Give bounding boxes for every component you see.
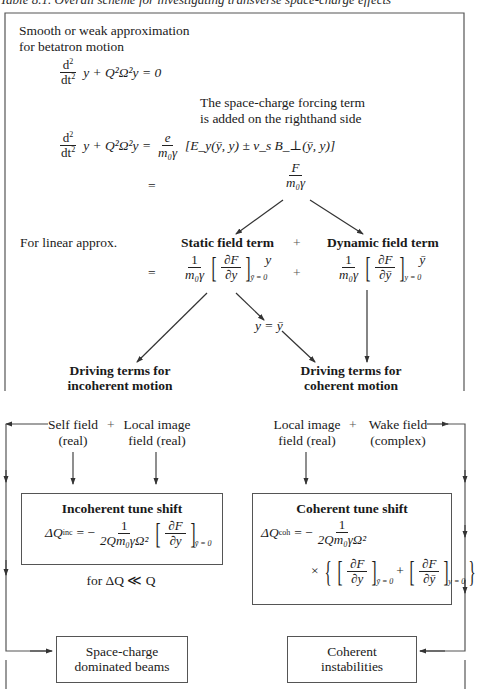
incoherent-formula: ΔQinc = − 12Qm₀γΩ² [ ∂F∂y ] ȳ = 0 [45, 518, 212, 548]
equals-sign: = [148, 178, 156, 193]
self-field-line1: Self field [48, 417, 98, 432]
wake-field-line1: Wake field [368, 417, 428, 432]
wake-field-line2: (complex) [368, 433, 428, 448]
equation-forced-motion: d2 dt2 y + Q²Ω²y = e m₀γ [E_y(ȳ, y) ± v_… [56, 131, 335, 160]
result-right-line2: instabilities [288, 659, 416, 674]
driving-coherent-line1: Driving terms for [291, 363, 411, 378]
plus-sign: + [293, 235, 301, 250]
self-field-line2: (real) [48, 433, 98, 448]
local-image-right-line2: field (real) [272, 433, 342, 448]
condition-text: for ΔQ ≪ Q [71, 573, 171, 588]
space-charge-dominated-beams-box: Space-charge dominated beams [56, 636, 188, 683]
driving-incoherent-line2: incoherent motion [60, 378, 180, 393]
plus-sign-right: + [349, 417, 357, 432]
note-line2: is added on the righthand side [200, 111, 360, 126]
intro-text-line1: Smooth or weak approximation [19, 23, 190, 38]
coherent-tune-shift-box: Coherent tune shift ΔQcoh = − 12Qm₀γΩ² ×… [252, 493, 452, 605]
result-right-line1: Coherent [288, 644, 416, 659]
coherent-formula-line2: × { [ ∂F∂y ] ȳ = 0 + [ ∂F∂ȳ ] y = 0 } [311, 556, 479, 586]
force-fraction: F m₀γ [281, 161, 310, 190]
y-equals-ybar: y = ȳ [255, 318, 283, 333]
plus-sign-2: + [293, 265, 301, 280]
static-term-expression: 1m₀γ [ ∂F∂y ] ȳ = 0 y [180, 252, 271, 282]
static-field-term-heading: Static field term [181, 235, 274, 250]
plus-sign-left: + [107, 417, 115, 432]
dynamic-field-term-heading: Dynamic field term [327, 235, 439, 250]
coherent-heading: Coherent tune shift [253, 501, 451, 516]
driving-incoherent-line1: Driving terms for [60, 363, 180, 378]
result-left-line1: Space-charge [57, 644, 187, 659]
intro-text-line2: for betatron motion [19, 39, 124, 54]
incoherent-tune-shift-box: Incoherent tune shift ΔQinc = − 12Qm₀γΩ²… [21, 493, 223, 565]
linear-approx-label: For linear approx. [20, 235, 117, 250]
local-image-left-line1: Local image [122, 417, 192, 432]
equation-free-motion: d2 dt2 y + Q²Ω²y = 0 [56, 58, 161, 87]
driving-coherent-line2: coherent motion [291, 378, 411, 393]
coherent-instabilities-box: Coherent instabilities [287, 636, 417, 683]
dynamic-term-expression: 1m₀γ [ ∂F∂ȳ ] y = 0 ȳ [334, 252, 425, 282]
coherent-formula-line1: ΔQcoh = − 12Qm₀γΩ² [261, 518, 371, 547]
local-image-left-line2: field (real) [122, 433, 192, 448]
second-derivative-fraction: d2 dt2 [58, 58, 78, 87]
result-left-line2: dominated beams [57, 659, 187, 674]
equals-sign-2: = [148, 265, 156, 280]
local-image-right-line1: Local image [272, 417, 342, 432]
incoherent-heading: Incoherent tune shift [22, 501, 222, 516]
note-line1: The space-charge forcing term [200, 95, 360, 110]
